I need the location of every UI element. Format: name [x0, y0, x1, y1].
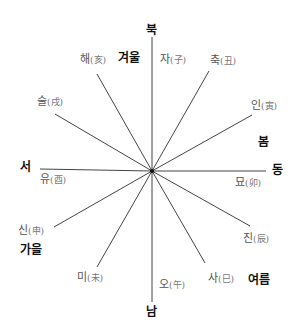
branch-sul: 술(戌)	[37, 96, 63, 107]
season-autumn: 가을	[20, 244, 42, 256]
line-hae	[97, 74, 152, 171]
branch-jin: 진(辰)	[243, 233, 269, 244]
branch-hae: 해(亥)	[80, 54, 106, 65]
direction-north: 북	[146, 24, 157, 36]
branch-myo: 묘(卯)	[235, 177, 261, 188]
line-in	[152, 115, 252, 171]
direction-east: 동	[272, 164, 283, 176]
season-summer: 여름	[248, 274, 270, 286]
branch-sa: 사(巳)	[208, 273, 234, 284]
branch-in: 인(寅)	[251, 100, 277, 111]
center-point	[150, 169, 154, 173]
line-chuk	[152, 71, 209, 171]
line-mi	[97, 171, 152, 267]
branch-sin: 신(申)	[18, 225, 44, 236]
season-spring: 봄	[258, 136, 269, 148]
direction-south: 남	[146, 306, 157, 318]
line-sul	[55, 114, 152, 171]
direction-west: 서	[20, 161, 31, 173]
branch-yu: 유(酉)	[40, 174, 66, 185]
branch-mi: 미(未)	[77, 272, 103, 283]
twelve-branches-compass-diagram: 북 남 서 동 겨울 봄 여름 가을 자(子) 축(丑) 인(寅) 묘(卯) 진…	[0, 0, 301, 334]
branch-o: 오(午)	[159, 279, 185, 290]
season-winter: 겨울	[118, 52, 140, 64]
line-sin	[54, 171, 152, 227]
line-sa	[152, 171, 205, 263]
line-west	[40, 169, 152, 171]
branch-ja: 자(子)	[160, 54, 186, 65]
branch-chuk: 축(丑)	[210, 55, 236, 66]
